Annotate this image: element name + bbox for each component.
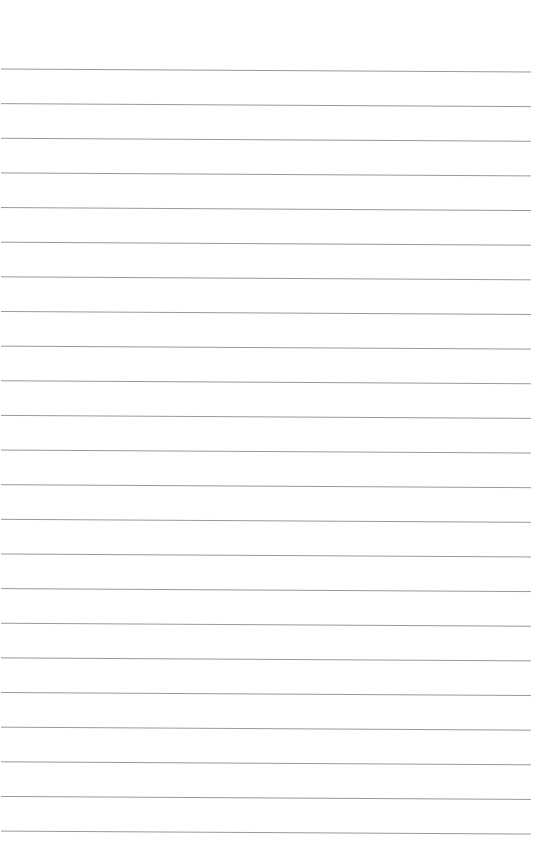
ruled-line — [1, 381, 531, 384]
ruled-line — [1, 658, 531, 661]
ruled-line — [1, 693, 531, 696]
ruled-lines — [0, 0, 533, 866]
ruled-line — [1, 831, 531, 834]
ruled-line — [1, 796, 531, 799]
lined-paper-page — [0, 0, 533, 866]
ruled-line — [1, 104, 531, 107]
ruled-line — [1, 311, 531, 314]
ruled-line — [1, 415, 531, 418]
ruled-line — [1, 485, 531, 488]
ruled-line — [1, 277, 531, 280]
ruled-line — [1, 623, 531, 626]
ruled-line — [1, 173, 531, 176]
ruled-line — [1, 519, 531, 522]
ruled-line — [1, 138, 531, 141]
ruled-line — [1, 242, 531, 245]
ruled-line — [1, 554, 531, 557]
ruled-line — [1, 346, 531, 349]
ruled-line — [1, 589, 531, 592]
ruled-line — [1, 727, 531, 730]
ruled-line — [1, 762, 531, 765]
ruled-line — [1, 208, 531, 211]
ruled-line — [1, 450, 531, 453]
ruled-line — [1, 69, 531, 72]
